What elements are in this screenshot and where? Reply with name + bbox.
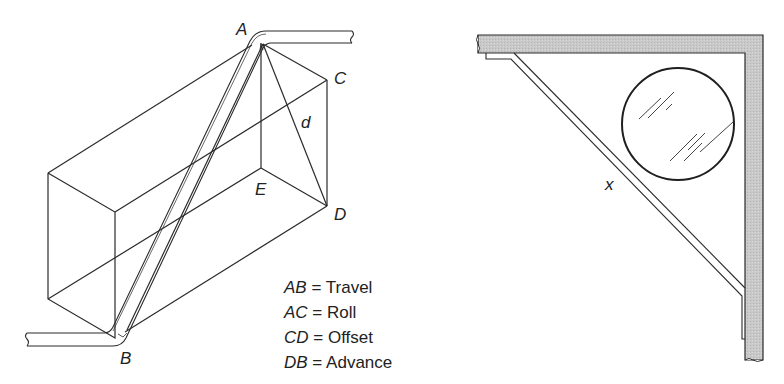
legend-eq: = <box>312 353 322 372</box>
legend-row-advance: DB = Advance <box>284 350 392 375</box>
legend-row-offset: CD = Offset <box>284 325 392 350</box>
legend-value: Roll <box>327 303 356 322</box>
box-front-face <box>48 173 115 338</box>
edge-AB-inner <box>127 44 263 330</box>
brace-length-label-x: x <box>605 176 614 193</box>
legend: AB = Travel AC = Roll CD = Offset DB = A… <box>284 275 392 375</box>
legend-value: Advance <box>326 353 392 372</box>
edge-AD <box>263 44 327 206</box>
legend-eq: = <box>312 303 322 322</box>
legend-eq: = <box>313 328 323 347</box>
legend-key: AC <box>284 303 308 322</box>
legend-row-travel: AB = Travel <box>284 275 392 300</box>
legend-value: Offset <box>328 328 373 347</box>
mirror-circle <box>622 68 734 180</box>
bracket-figure <box>477 35 764 362</box>
edge-ED <box>261 168 327 206</box>
point-label-D: D <box>334 206 346 223</box>
ceiling-wall <box>478 35 763 360</box>
edge-AC <box>263 44 327 80</box>
legend-row-roll: AC = Roll <box>284 300 392 325</box>
box-top-back-edge <box>48 45 252 173</box>
legend-eq: = <box>311 278 321 297</box>
point-label-A: A <box>236 21 247 38</box>
legend-key: DB <box>284 353 308 372</box>
dimension-label-d: d <box>301 114 310 131</box>
legend-value: Travel <box>326 278 373 297</box>
legend-key: AB <box>284 278 307 297</box>
point-label-C: C <box>334 70 346 87</box>
legend-key: CD <box>284 328 309 347</box>
point-label-E: E <box>255 181 266 198</box>
point-label-B: B <box>120 350 131 367</box>
